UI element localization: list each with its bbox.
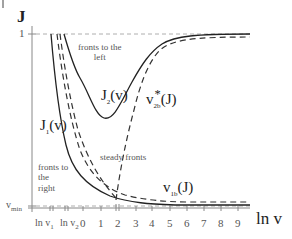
x-tick-label-ln-v2: ln v2 bbox=[60, 218, 79, 231]
x-tick-label-7: 7 bbox=[201, 218, 207, 229]
label-v2b: v2b*(J) bbox=[146, 88, 177, 110]
x-tick-label-6: 6 bbox=[184, 218, 190, 229]
region-steady-fronts: steady fronts bbox=[100, 152, 146, 162]
x-tick-label-5: 5 bbox=[167, 218, 173, 229]
x-tick-label-ln-v1: ln v1 bbox=[35, 218, 54, 231]
x-tick-label-4: 4 bbox=[149, 218, 155, 229]
y-tick-label-vmin: vmin bbox=[6, 200, 22, 213]
region-fronts-left: fronts to the left bbox=[78, 42, 122, 63]
y-axis-title: J bbox=[17, 8, 26, 25]
y-tick-label-1: 1 bbox=[19, 28, 25, 39]
x-tick-label-2: 2 bbox=[115, 218, 121, 229]
region-fronts-right: fronts to the right bbox=[38, 162, 68, 193]
x-tick-label-0: 0 bbox=[80, 218, 86, 229]
label-j1: J1(v) bbox=[40, 118, 67, 136]
x-tick-label-9: 9 bbox=[235, 218, 241, 229]
label-j2: J2(v) bbox=[101, 88, 128, 106]
x-tick-label-3: 3 bbox=[133, 218, 139, 229]
curve-v2b-dashed-right bbox=[116, 37, 250, 200]
x-tick-label-1: 1 bbox=[98, 218, 104, 229]
x-tick-label-8: 8 bbox=[218, 218, 224, 229]
x-axis-title: ln v bbox=[256, 210, 282, 227]
label-v1b: v1b(J) bbox=[163, 180, 193, 198]
